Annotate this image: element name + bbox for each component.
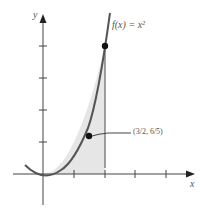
centroid-label: (3/2, 6/5): [133, 127, 163, 136]
y-axis-label: y: [33, 9, 37, 20]
centroid-diagram: [0, 0, 209, 215]
centroid-point: [86, 133, 92, 139]
y-axis-arrow-icon: [40, 14, 47, 23]
function-label: f(x) = x²: [112, 19, 145, 30]
curve-point: [102, 43, 108, 49]
x-axis-arrow-icon: [186, 171, 195, 178]
x-axis-label: x: [190, 178, 194, 189]
